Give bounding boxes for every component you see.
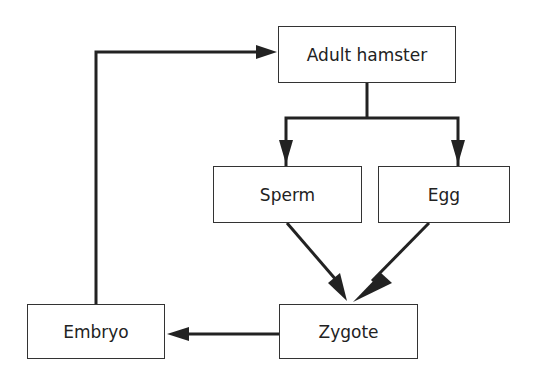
node-zygote: Zygote — [279, 304, 418, 359]
node-label: Egg — [428, 185, 460, 205]
arrow-adult-to-gametes — [279, 83, 465, 166]
arrow-sperm-to-zygote — [287, 223, 347, 301]
node-egg: Egg — [378, 166, 510, 223]
node-label: Embryo — [63, 322, 129, 342]
node-label: Zygote — [318, 322, 378, 342]
node-sperm: Sperm — [213, 166, 362, 223]
node-label: Adult hamster — [307, 45, 427, 65]
arrow-zygote-to-embryo — [167, 327, 279, 341]
arrow-egg-to-zygote — [353, 223, 429, 302]
node-embryo: Embryo — [27, 304, 165, 359]
node-label: Sperm — [260, 185, 315, 205]
node-adult-hamster: Adult hamster — [278, 26, 456, 83]
